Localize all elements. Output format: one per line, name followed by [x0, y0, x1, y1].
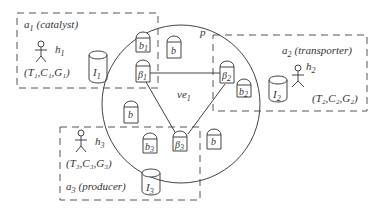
link-beta1-beta3 [146, 82, 176, 134]
agent-a3-label: a3(producer) [66, 180, 126, 195]
bot-b: b [207, 129, 221, 149]
agent-a2-label: a2(transporter) [282, 44, 352, 59]
svg-text:b: b [128, 109, 133, 120]
inventory-i1-label: I1 [92, 66, 101, 81]
human-h1-label: h1 [55, 43, 65, 58]
bot-b3: b3 [143, 133, 157, 154]
broker-beta3: β3 [173, 131, 187, 152]
human-h3-label: h3 [95, 135, 105, 150]
bot-b: b [124, 101, 138, 123]
agent-a2-tuple: (T₂,C₂,G₂) [312, 92, 358, 105]
broker-beta2: β2 [220, 61, 234, 83]
svg-text:b: b [171, 45, 176, 56]
agent-a1-label: a1(catalyst) [24, 18, 78, 33]
bot-b: b [167, 36, 181, 58]
bot-b1: b1 [136, 32, 150, 53]
ve1-label: ve1 [177, 88, 191, 103]
human-h1-icon [35, 41, 47, 62]
bot-b2: b2 [237, 79, 251, 99]
agent-a1-tuple: (T₁,C₁,G₁) [24, 66, 70, 79]
link-beta2-beta3 [188, 84, 225, 134]
inventory-i3-label: I3 [145, 181, 154, 196]
broker-beta1: β1 [136, 60, 150, 82]
human-h2-label: h2 [306, 60, 316, 75]
human-h3-icon [75, 130, 87, 152]
platform-label: p [199, 26, 206, 38]
human-h2-icon [292, 65, 304, 87]
svg-text:b: b [211, 136, 216, 147]
diagram-canvas: a1(catalyst) h1 (T₁,C₁,G₁) I1 p ve1 b1 b… [0, 0, 378, 215]
agent-a3-tuple: (T₃,C₃,G₃) [66, 157, 112, 170]
inventory-i2-label: I2 [272, 88, 281, 103]
